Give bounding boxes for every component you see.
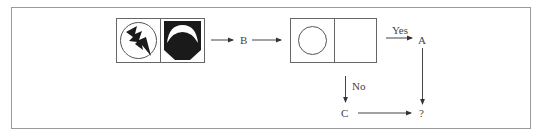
node-b-label: B <box>240 34 247 46</box>
black-shield-with-crescent-icon <box>164 21 201 60</box>
node-question-label: ? <box>419 107 424 119</box>
edge-yes-label: Yes <box>392 24 408 36</box>
diagram-canvas <box>0 0 538 135</box>
edge-no-label: No <box>352 80 365 92</box>
node-a-label: A <box>418 34 426 46</box>
second-box-pair <box>291 19 377 63</box>
node-c-label: C <box>341 107 348 119</box>
lightning-in-circle-icon <box>121 23 157 59</box>
